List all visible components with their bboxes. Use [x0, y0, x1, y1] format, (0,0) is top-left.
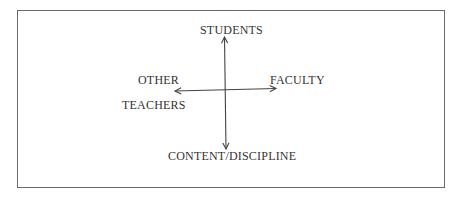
label-teachers: TEACHERS [122, 99, 186, 111]
label-students: STUDENTS [200, 24, 263, 36]
label-faculty: FACULTY [270, 74, 325, 86]
label-content-discipline: CONTENT/DISCIPLINE [168, 150, 296, 162]
vertical-arrow [225, 37, 227, 149]
label-other: OTHER [138, 74, 179, 86]
